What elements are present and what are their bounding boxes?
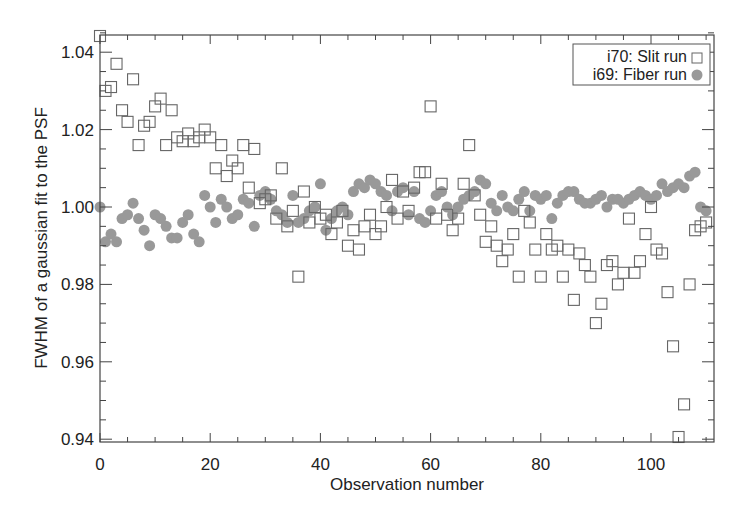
fiber-point bbox=[546, 213, 557, 224]
slit-point bbox=[298, 186, 309, 197]
slit-point bbox=[458, 178, 469, 189]
slit-point bbox=[530, 244, 541, 255]
slit-point bbox=[387, 174, 398, 185]
fiber-point bbox=[221, 202, 232, 213]
slit-point bbox=[579, 260, 590, 271]
slit-point bbox=[243, 182, 254, 193]
fiber-point bbox=[205, 202, 216, 213]
y-tick-label: 0.98 bbox=[61, 275, 94, 294]
slit-point bbox=[623, 213, 634, 224]
fiber-point bbox=[161, 221, 172, 232]
slit-point bbox=[475, 209, 486, 220]
slit-point bbox=[524, 217, 535, 228]
slit-point bbox=[535, 271, 546, 282]
slit-point bbox=[117, 105, 128, 116]
slit-point bbox=[668, 341, 679, 352]
fiber-point bbox=[690, 167, 701, 178]
fiber-point bbox=[194, 236, 205, 247]
slit-point bbox=[464, 140, 475, 151]
fiber-point bbox=[232, 209, 243, 220]
fiber-point bbox=[287, 190, 298, 201]
slit-point bbox=[568, 294, 579, 305]
slit-point bbox=[585, 271, 596, 282]
fiber-point bbox=[199, 190, 210, 201]
slit-point bbox=[359, 221, 370, 232]
fiber-point bbox=[508, 205, 519, 216]
y-tick-label: 1.00 bbox=[61, 198, 94, 217]
slit-point bbox=[612, 279, 623, 290]
fiber-point bbox=[436, 186, 447, 197]
fiber-point bbox=[497, 190, 508, 201]
slit-point bbox=[508, 229, 519, 240]
fiber-point bbox=[398, 182, 409, 193]
fiber-point bbox=[111, 236, 122, 247]
slit-point bbox=[679, 399, 690, 410]
fiber-point bbox=[596, 190, 607, 201]
slit-point bbox=[491, 240, 502, 251]
legend-label-fiber: i69: Fiber run bbox=[593, 66, 687, 83]
slit-point bbox=[574, 248, 585, 259]
slit-point bbox=[590, 318, 601, 329]
slit-point bbox=[541, 229, 552, 240]
fiber-point bbox=[172, 232, 183, 243]
slit-point bbox=[348, 225, 359, 236]
plot-points bbox=[95, 31, 712, 443]
slit-point bbox=[502, 244, 513, 255]
fiber-point bbox=[243, 198, 254, 209]
slit-point bbox=[221, 171, 232, 182]
slit-point bbox=[629, 267, 640, 278]
y-tick-label: 1.04 bbox=[61, 43, 94, 62]
slit-point bbox=[353, 244, 364, 255]
slit-point bbox=[122, 116, 133, 127]
fiber-point bbox=[409, 186, 420, 197]
fiber-point bbox=[679, 182, 690, 193]
fiber-point bbox=[315, 178, 326, 189]
slit-point bbox=[480, 236, 491, 247]
fiber-point bbox=[519, 186, 530, 197]
x-tick-label: 20 bbox=[201, 455, 220, 474]
fiber-point bbox=[381, 190, 392, 201]
slit-point bbox=[293, 271, 304, 282]
fiber-point bbox=[309, 202, 320, 213]
fiber-point bbox=[403, 209, 414, 220]
slit-point bbox=[563, 244, 574, 255]
slit-point bbox=[287, 205, 298, 216]
slit-point bbox=[662, 287, 673, 298]
slit-point bbox=[128, 74, 139, 85]
slit-point bbox=[557, 271, 568, 282]
slit-point bbox=[497, 256, 508, 267]
slit-point bbox=[216, 140, 227, 151]
slit-point bbox=[133, 140, 144, 151]
slit-point bbox=[364, 209, 375, 220]
fiber-point bbox=[282, 217, 293, 228]
slit-point bbox=[596, 298, 607, 309]
x-tick-label: 60 bbox=[421, 455, 440, 474]
fiber-point bbox=[469, 186, 480, 197]
y-tick-label: 0.96 bbox=[61, 353, 94, 372]
x-tick-label: 0 bbox=[95, 455, 104, 474]
fiber-point bbox=[541, 190, 552, 201]
fiber-point bbox=[651, 190, 662, 201]
slit-point bbox=[342, 240, 353, 251]
legend-circle-icon bbox=[692, 70, 703, 81]
fiber-point bbox=[128, 198, 139, 209]
fiber-point bbox=[210, 217, 221, 228]
slit-point bbox=[513, 271, 524, 282]
x-tick-label: 80 bbox=[531, 455, 550, 474]
fiber-point bbox=[139, 225, 150, 236]
slit-point bbox=[161, 140, 172, 151]
y-tick-label: 0.94 bbox=[61, 430, 94, 449]
slit-point bbox=[640, 229, 651, 240]
scatter-chart: 0204060801000.940.960.981.001.021.04 Obs… bbox=[0, 0, 744, 513]
legend-label-slit: i70: Slit run bbox=[607, 48, 687, 65]
fiber-point bbox=[480, 178, 491, 189]
fiber-point bbox=[183, 209, 194, 220]
slit-point bbox=[684, 279, 695, 290]
slit-point bbox=[634, 256, 645, 267]
legend: i70: Slit run i69: Fiber run bbox=[573, 44, 710, 85]
slit-point bbox=[166, 105, 177, 116]
slit-point bbox=[486, 221, 497, 232]
slit-point bbox=[447, 225, 458, 236]
fiber-point bbox=[249, 221, 260, 232]
slit-point bbox=[425, 101, 436, 112]
